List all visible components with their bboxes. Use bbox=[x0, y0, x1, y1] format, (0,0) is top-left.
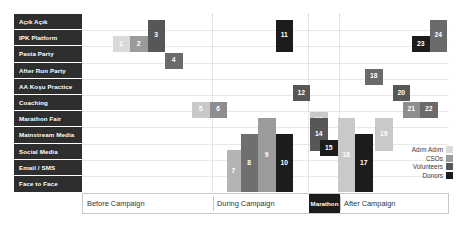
data-cell[interactable]: 9 bbox=[258, 118, 276, 192]
legend-swatch bbox=[446, 172, 453, 179]
gridline bbox=[82, 79, 449, 80]
legend-item[interactable]: Volunteers bbox=[413, 163, 453, 170]
data-cell[interactable]: 12 bbox=[293, 85, 311, 101]
data-cell[interactable]: 6 bbox=[210, 102, 228, 118]
data-cell[interactable]: 15 bbox=[320, 140, 338, 156]
y-axis-row-label: Açık Açık bbox=[14, 14, 82, 30]
y-axis-row-labels: Açık AçıkIPK PlatformPasta PartyAfter Ru… bbox=[14, 14, 82, 192]
legend-item[interactable]: CSOs bbox=[426, 155, 453, 162]
data-cell[interactable]: 17 bbox=[355, 134, 373, 192]
x-axis-section-during-campaign[interactable]: During Campaign bbox=[213, 194, 309, 213]
legend: Adım AdımCSOsVolunteersDonors bbox=[412, 146, 453, 179]
data-cell[interactable]: 19 bbox=[375, 118, 393, 151]
legend-item[interactable]: Adım Adım bbox=[412, 146, 453, 153]
data-cell[interactable]: 24 bbox=[430, 20, 448, 53]
x-axis-divider bbox=[340, 196, 341, 211]
y-axis-row-label: IPK Platform bbox=[14, 30, 82, 46]
legend-swatch bbox=[446, 146, 453, 153]
phase-separator bbox=[308, 14, 310, 192]
x-axis-section-after-campaign[interactable]: After Campaign bbox=[340, 194, 450, 213]
x-axis-divider bbox=[213, 196, 214, 211]
gridline bbox=[82, 30, 449, 31]
data-cell[interactable]: 11 bbox=[276, 20, 294, 53]
legend-swatch bbox=[446, 155, 453, 162]
data-cell[interactable]: 1 bbox=[113, 36, 131, 52]
campaign-touchpoint-chart: Açık AçıkIPK PlatformPasta PartyAfter Ru… bbox=[0, 0, 463, 228]
y-axis-row-label: Face to Face bbox=[14, 176, 82, 192]
data-cell[interactable]: 7 bbox=[227, 150, 241, 192]
y-axis-row-label: Marathon Fair bbox=[14, 111, 82, 127]
y-axis-row-label: Email / SMS bbox=[14, 160, 82, 176]
y-axis-row-label: Pasta Party bbox=[14, 46, 82, 62]
x-axis-section-before-campaign[interactable]: Before Campaign bbox=[83, 194, 213, 213]
y-axis-row-label: Social Media bbox=[14, 144, 82, 160]
y-axis-row-label: Mainstream Media bbox=[14, 127, 82, 143]
data-cell[interactable]: 5 bbox=[192, 102, 210, 118]
data-cell[interactable]: 20 bbox=[393, 85, 411, 101]
legend-label: CSOs bbox=[426, 155, 443, 162]
data-cell[interactable]: 16 bbox=[338, 118, 356, 192]
data-cell[interactable]: 3 bbox=[148, 20, 166, 53]
y-axis-row-label: AA Koşu Practice bbox=[14, 79, 82, 95]
data-cell[interactable]: 21 bbox=[403, 102, 421, 118]
data-cell[interactable]: 4 bbox=[165, 53, 183, 69]
legend-label: Adım Adım bbox=[412, 146, 443, 153]
x-axis: Before CampaignDuring CampaignMarathonAf… bbox=[82, 193, 449, 214]
data-cell[interactable]: 23 bbox=[412, 36, 430, 52]
x-axis-section-marathon[interactable]: Marathon bbox=[309, 194, 340, 213]
legend-item[interactable]: Donors bbox=[422, 172, 453, 179]
data-cell[interactable]: 2 bbox=[130, 36, 148, 52]
legend-label: Donors bbox=[422, 172, 443, 179]
legend-label: Volunteers bbox=[413, 163, 443, 170]
gridline bbox=[82, 111, 449, 112]
gridline bbox=[82, 63, 449, 64]
data-cell[interactable]: 22 bbox=[420, 102, 438, 118]
data-cell[interactable]: 8 bbox=[241, 134, 259, 192]
y-axis-row-label: Coaching bbox=[14, 95, 82, 111]
y-axis-row-label: After Run Party bbox=[14, 63, 82, 79]
data-cell[interactable]: 18 bbox=[365, 69, 383, 85]
plot-area: 123456789101112131415161718192021222324 bbox=[82, 14, 449, 192]
legend-swatch bbox=[446, 163, 453, 170]
data-cell[interactable]: 10 bbox=[276, 134, 294, 192]
